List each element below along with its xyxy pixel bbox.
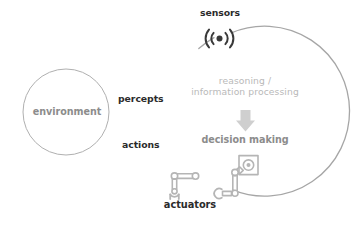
actuators-label: actuators [152,200,228,210]
actuator-left-icon [170,173,199,199]
reasoning-line-2: information processing [186,87,304,97]
reasoning-line-1: reasoning / [186,76,304,86]
actuator-right-icon [214,156,258,199]
percepts-label: percepts [118,94,164,104]
sensors-label: sensors [190,8,250,18]
sensor-icon [206,30,234,48]
environment-label: environment [26,107,108,117]
down-arrow-icon [236,110,255,132]
actions-label: actions [122,140,160,150]
decision-making-label: decision making [190,135,300,145]
reasoning-text-block: reasoning / information processing [186,76,304,96]
agent-diagram: environment percepts actions sensors act… [0,0,353,226]
